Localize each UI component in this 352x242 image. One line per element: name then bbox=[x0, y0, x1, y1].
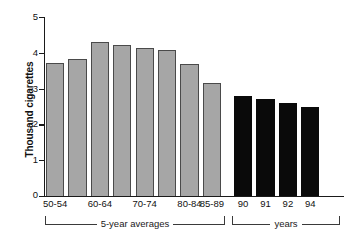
bar-80-84[interactable] bbox=[180, 64, 198, 196]
bracket-5-year-averages: 5-year averages bbox=[45, 216, 225, 227]
bar-94[interactable] bbox=[301, 107, 319, 197]
bracket-line-left bbox=[232, 224, 270, 225]
x-tick-label-50-54: 50-54 bbox=[33, 199, 77, 209]
y-tick-label-3: 3 bbox=[18, 84, 38, 94]
bar-75-79[interactable] bbox=[158, 50, 176, 196]
y-tick-label-5: 5 bbox=[18, 12, 38, 22]
bar-92[interactable] bbox=[279, 103, 297, 196]
bar-65-69[interactable] bbox=[113, 45, 131, 196]
bar-55-59[interactable] bbox=[68, 59, 86, 196]
y-tick-label-2: 2 bbox=[18, 119, 38, 129]
y-tick-5 bbox=[39, 17, 44, 18]
bar-50-54[interactable] bbox=[46, 63, 64, 196]
bracket-label-years: years bbox=[274, 218, 297, 229]
bar-91[interactable] bbox=[256, 99, 274, 196]
y-tick-4 bbox=[39, 53, 44, 54]
bracket-line-left bbox=[45, 224, 97, 225]
y-tick-label-1: 1 bbox=[18, 155, 38, 165]
bracket-years: years bbox=[232, 216, 340, 227]
bar-70-74[interactable] bbox=[136, 48, 154, 196]
y-tick-3 bbox=[39, 89, 44, 90]
y-tick-0 bbox=[39, 196, 44, 197]
bracket-label-averages: 5-year averages bbox=[101, 218, 170, 229]
x-tick-label-94: 94 bbox=[288, 199, 332, 209]
y-tick-label-4: 4 bbox=[18, 48, 38, 58]
x-tick-label-60-64: 60-64 bbox=[78, 199, 122, 209]
bar-chart-figure: Thousand cigarettes 5 4 3 2 1 0 50-54 60… bbox=[0, 0, 352, 242]
bracket-line-right bbox=[173, 224, 225, 225]
plot-area: 5 4 3 2 1 0 50-54 60-64 70-74 80-84 85-8… bbox=[44, 17, 344, 196]
x-tick-label-70-74: 70-74 bbox=[123, 199, 167, 209]
bracket-line-right bbox=[302, 224, 340, 225]
bar-85-89[interactable] bbox=[203, 83, 221, 196]
y-tick-1 bbox=[39, 160, 44, 161]
y-tick-2 bbox=[39, 124, 44, 125]
bar-90[interactable] bbox=[234, 96, 252, 196]
bar-60-64[interactable] bbox=[91, 42, 109, 196]
